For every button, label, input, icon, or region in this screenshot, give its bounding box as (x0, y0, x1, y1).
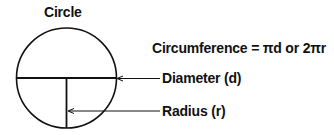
diameter-label: Diameter (d) (162, 70, 241, 86)
radius-label: Radius (r) (162, 103, 225, 119)
circumference-label: Circumference = πd or 2πr (152, 40, 326, 56)
